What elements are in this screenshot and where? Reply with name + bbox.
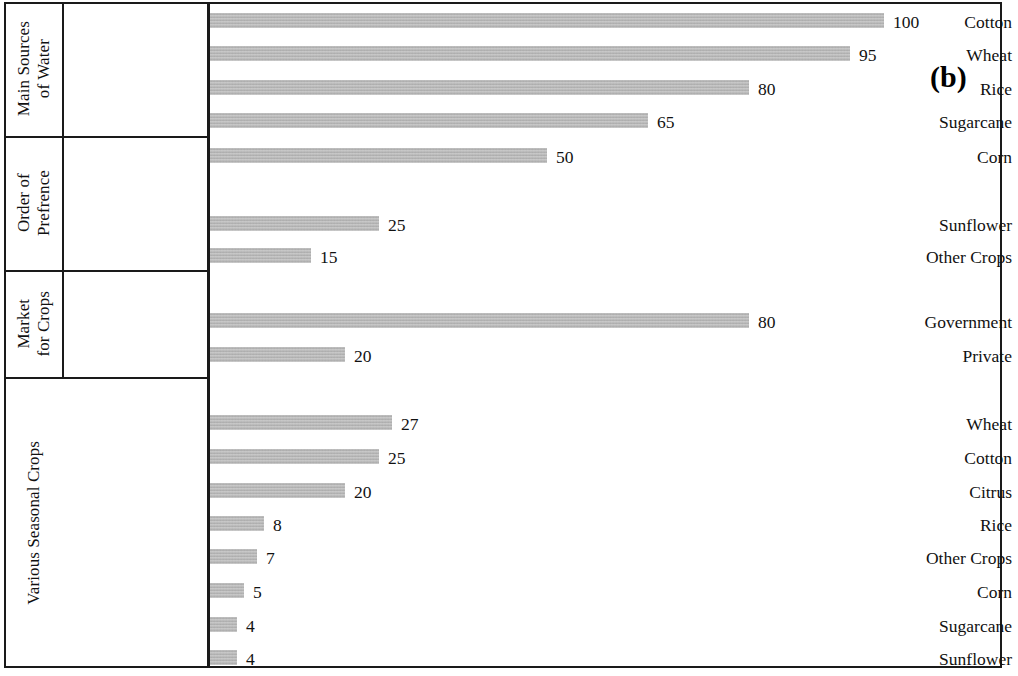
category-label: Other Crops: [818, 249, 1018, 267]
bar-value-label: 20: [354, 348, 372, 366]
bar-value-label: 50: [556, 149, 574, 167]
group-name-column-rule: [62, 2, 64, 379]
category-label: Sunflower: [818, 217, 1018, 235]
bar-value-label: 95: [859, 47, 877, 65]
bar-value-label: 65: [657, 114, 675, 132]
group-name-2: Order of Prefrence: [6, 136, 62, 270]
bar: [210, 148, 547, 163]
category-label: Government: [818, 314, 1018, 332]
bar-value-label: 4: [246, 651, 255, 669]
category-label: Rice: [818, 517, 1018, 535]
bar-value-label: 8: [273, 517, 282, 535]
panel-tag-label: (b): [930, 62, 967, 92]
category-label: Sugarcane: [818, 114, 1018, 132]
category-label: Cotton: [818, 450, 1018, 468]
bar: [210, 313, 749, 328]
bar-value-label: 25: [388, 450, 406, 468]
figure-panel-b: Main Sources of WaterOrder of PrefrenceM…: [0, 0, 1018, 676]
group-name-text: Main Sources of Water: [14, 21, 54, 116]
bar: [210, 617, 237, 632]
bar: [210, 113, 648, 128]
bar: [210, 46, 850, 61]
category-label: Other Crops: [818, 550, 1018, 568]
group-name-3: Market for Crops: [6, 270, 62, 377]
bar: [210, 583, 244, 598]
bar-value-label: 100: [893, 14, 919, 32]
group-name-text: Order of Prefrence: [14, 170, 54, 236]
category-label: Rice: [818, 81, 1018, 99]
bar-value-label: 20: [354, 484, 372, 502]
bar: [210, 549, 257, 564]
bar-value-label: 25: [388, 217, 406, 235]
bar: [210, 13, 884, 28]
group-name-text: Market for Crops: [14, 291, 54, 357]
bar-value-label: 15: [320, 249, 338, 267]
category-label: Private: [818, 348, 1018, 366]
group-name-1: Main Sources of Water: [6, 2, 62, 136]
category-label: Sugarcane: [818, 618, 1018, 636]
category-label: Wheat: [818, 416, 1018, 434]
category-label: Sunflower: [818, 651, 1018, 669]
group-name-text: Various Seasonal Crops: [24, 441, 44, 605]
bar: [210, 483, 345, 498]
bar: [210, 248, 311, 263]
group-name-4: Various Seasonal Crops: [6, 377, 62, 668]
bar: [210, 216, 379, 231]
category-label: Corn: [818, 584, 1018, 602]
category-label: Citrus: [818, 484, 1018, 502]
bar-value-label: 5: [253, 584, 262, 602]
bar: [210, 415, 392, 430]
bar: [210, 516, 264, 531]
bar-value-label: 80: [758, 81, 776, 99]
bar-value-label: 27: [401, 416, 419, 434]
bar: [210, 650, 237, 665]
bar: [210, 449, 379, 464]
category-label: Corn: [818, 149, 1018, 167]
category-axis-line: [207, 2, 210, 668]
bar-value-label: 7: [266, 550, 275, 568]
panel-border: [4, 2, 1002, 668]
bar-value-label: 80: [758, 314, 776, 332]
bar: [210, 80, 749, 95]
bar-value-label: 4: [246, 618, 255, 636]
bar: [210, 347, 345, 362]
